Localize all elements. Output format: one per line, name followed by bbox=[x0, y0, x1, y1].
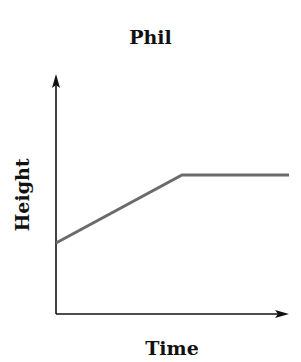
x-axis bbox=[56, 310, 289, 318]
x-axis-label: Time bbox=[112, 337, 232, 359]
y-axis bbox=[52, 74, 60, 314]
plot-area bbox=[0, 0, 301, 362]
series-line-phil bbox=[56, 175, 289, 243]
y-axis-label: Height bbox=[11, 145, 33, 245]
